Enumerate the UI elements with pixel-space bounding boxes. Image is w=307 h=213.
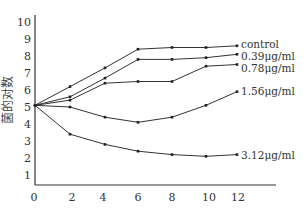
y-tick-label: 7 bbox=[24, 67, 31, 80]
data-point-marker bbox=[137, 80, 140, 83]
line-chart: 12345678910 024681012 菌的对数 control0.39μg… bbox=[0, 0, 307, 213]
data-point-marker bbox=[69, 96, 72, 99]
x-tick-label: 2 bbox=[69, 191, 76, 204]
y-tick-label: 1 bbox=[24, 169, 31, 182]
data-point-marker bbox=[137, 58, 140, 61]
y-axis-label: 菌的对数 bbox=[0, 76, 15, 124]
data-point-marker bbox=[236, 63, 239, 66]
data-point-marker bbox=[205, 46, 208, 49]
data-point-marker bbox=[171, 80, 174, 83]
data-point-marker bbox=[137, 150, 140, 153]
data-point-marker bbox=[205, 56, 208, 59]
series-label: 0.78μg/ml bbox=[241, 62, 295, 74]
y-tick-label: 5 bbox=[24, 101, 31, 114]
data-point-marker bbox=[236, 53, 239, 56]
series-line bbox=[35, 105, 237, 156]
x-tick-label: 10 bbox=[202, 191, 216, 204]
y-tick-label: 10 bbox=[17, 16, 31, 29]
data-point-marker bbox=[104, 77, 107, 80]
y-tick-label: 8 bbox=[24, 50, 31, 63]
data-point-marker bbox=[137, 48, 140, 51]
data-point-marker bbox=[171, 153, 174, 156]
data-point-marker bbox=[236, 153, 239, 156]
x-tick-label: 0 bbox=[31, 191, 38, 204]
series-line bbox=[35, 54, 237, 105]
series-line bbox=[35, 92, 237, 123]
data-point-marker bbox=[205, 155, 208, 158]
series-line bbox=[35, 46, 237, 106]
series-lines bbox=[33, 45, 238, 158]
data-point-marker bbox=[205, 104, 208, 107]
data-point-marker bbox=[69, 106, 72, 109]
y-tick-label: 4 bbox=[24, 118, 31, 131]
data-point-marker bbox=[171, 58, 174, 61]
data-point-marker bbox=[104, 82, 107, 85]
data-point-marker bbox=[137, 121, 140, 124]
series-labels: control0.39μg/ml0.78μg/ml1.56μg/ml3.12μg… bbox=[241, 38, 295, 161]
data-point-marker bbox=[104, 116, 107, 119]
x-tick-labels: 024681012 bbox=[31, 191, 246, 204]
series-line bbox=[35, 65, 237, 106]
data-point-marker bbox=[104, 67, 107, 70]
data-point-marker bbox=[104, 143, 107, 146]
data-point-marker bbox=[69, 133, 72, 136]
data-point-marker bbox=[69, 85, 72, 88]
data-point-marker bbox=[236, 90, 239, 93]
series-label: 3.12μg/ml bbox=[241, 149, 295, 161]
x-tick-label: 4 bbox=[100, 191, 107, 204]
x-tick-label: 12 bbox=[231, 191, 245, 204]
data-point-marker bbox=[171, 116, 174, 119]
x-tick-label: 8 bbox=[169, 191, 176, 204]
y-tick-label: 6 bbox=[24, 84, 31, 97]
series-label: 0.39μg/ml bbox=[241, 50, 295, 62]
series-label: 1.56μg/ml bbox=[241, 85, 295, 97]
origin-marker bbox=[33, 104, 36, 107]
y-tick-label: 9 bbox=[24, 33, 31, 46]
y-tick-label: 3 bbox=[24, 135, 31, 148]
data-point-marker bbox=[205, 65, 208, 68]
data-point-marker bbox=[236, 45, 239, 48]
y-tick-label: 2 bbox=[24, 152, 31, 165]
data-point-marker bbox=[171, 46, 174, 49]
x-tick-label: 6 bbox=[135, 191, 142, 204]
y-tick-labels: 12345678910 bbox=[17, 16, 31, 182]
series-label: control bbox=[241, 38, 280, 50]
data-point-marker bbox=[69, 99, 72, 102]
